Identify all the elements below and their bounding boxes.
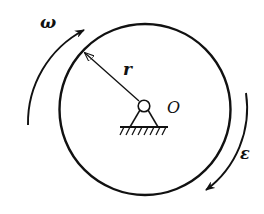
pin-support: [120, 100, 168, 135]
ground-hatching: [120, 127, 166, 135]
radius-label: r: [123, 61, 132, 78]
pivot-pin-circle: [138, 100, 150, 112]
diagram-canvas: [0, 0, 264, 214]
epsilon-label: ε: [240, 146, 250, 162]
rotating-disk-diagram: ω r O ε: [0, 0, 264, 214]
omega-arrow: [28, 30, 84, 125]
epsilon-arrow: [206, 93, 247, 190]
omega-label: ω: [40, 14, 56, 31]
center-o-label: O: [167, 100, 180, 116]
